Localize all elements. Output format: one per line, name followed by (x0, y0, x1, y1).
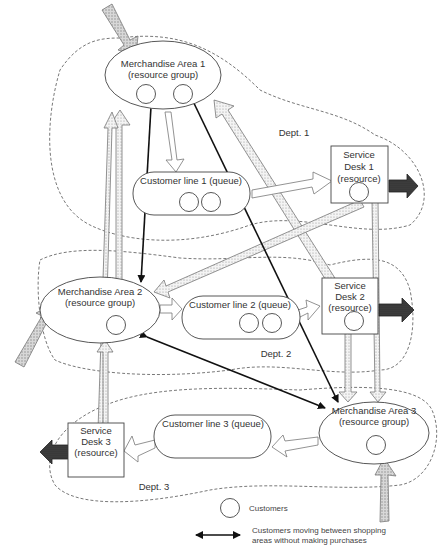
customer-icon (107, 316, 126, 335)
customer-line-3: Customer line 3 (queue) (154, 415, 271, 458)
svg-text:Service: Service (80, 425, 112, 436)
svg-text:Service: Service (343, 149, 375, 160)
svg-text:(resource group): (resource group) (339, 416, 409, 427)
customer-icon (137, 85, 156, 104)
exit-arrow-sd2 (379, 298, 414, 322)
svg-text:Merchandise Area 1: Merchandise Area 1 (121, 58, 206, 69)
legend-moving-label-2: areas without making purchases (252, 536, 367, 545)
flow-arrow-cl2-sd2 (298, 300, 320, 320)
svg-text:Merchandise Area 2: Merchandise Area 2 (58, 286, 143, 297)
customer-icon (263, 314, 282, 333)
service-desk-2: Service Desk 2 (resource) (322, 278, 378, 334)
svg-text:(resource group): (resource group) (65, 297, 135, 308)
svg-text:Merchandise Area 3: Merchandise Area 3 (332, 405, 417, 416)
merchandise-area-1: Merchandise Area 1 (resource group) (105, 41, 221, 109)
move-line-ma2-ma3 (147, 337, 325, 408)
flow-arrow-ma3-cl3 (272, 435, 318, 457)
customer-icon (174, 85, 193, 104)
svg-text:Desk 3: Desk 3 (81, 436, 111, 447)
service-desk-1: Service Desk 1 (resource) (331, 146, 388, 203)
customer-icon (180, 193, 199, 212)
dept2-label: Dept. 2 (261, 348, 292, 359)
flow-arrow-ma2-cl2 (160, 298, 182, 320)
svg-text:(resource): (resource) (74, 447, 117, 458)
customer-icon (367, 436, 386, 455)
svg-text:(resource group): (resource group) (128, 69, 198, 80)
legend-customer-icon (221, 499, 240, 518)
dept3-label: Dept. 3 (139, 481, 170, 492)
svg-text:Desk 1: Desk 1 (344, 161, 374, 172)
svg-text:Desk 2: Desk 2 (335, 291, 365, 302)
service-desk-3: Service Desk 3 (resource) (68, 423, 124, 477)
customer-icon (240, 314, 259, 333)
exit-arrow-sd1 (389, 174, 418, 198)
flow-arrow-cl3-sd3 (124, 436, 155, 462)
merchandise-area-3: Merchandise Area 3 (resource group) (319, 402, 429, 464)
svg-text:Customer line 3 (queue): Customer line 3 (queue) (162, 418, 264, 429)
customer-icon (345, 312, 364, 331)
exit-arrow-sd3 (40, 440, 68, 464)
customer-line-1: Customer line 1 (queue) (133, 172, 250, 215)
svg-text:(resource): (resource) (328, 302, 371, 313)
customer-icon (202, 193, 221, 212)
entry-arrow-ma3 (375, 458, 396, 522)
customer-line-2: Customer line 2 (queue) (182, 296, 300, 339)
customer-icon (350, 183, 369, 202)
flow-arrow-ma2-ma1 (110, 110, 130, 290)
store-flow-diagram: Merchandise Area 1 (resource group) Cust… (0, 0, 447, 559)
flow-arrow-ma1-cl1 (165, 112, 184, 172)
svg-text:Customer line 1 (queue): Customer line 1 (queue) (140, 175, 242, 186)
dept1-label: Dept. 1 (279, 127, 310, 138)
svg-text:Service: Service (334, 280, 366, 291)
legend-customers-label: Customers (249, 504, 288, 513)
flow-arrow-sd2-ma3 (339, 330, 357, 402)
legend-moving-label-1: Customers moving between shopping (252, 526, 386, 535)
svg-text:Customer line 2 (queue): Customer line 2 (queue) (189, 299, 291, 310)
merchandise-area-2: Merchandise Area 2 (resource group) (40, 277, 160, 343)
legend: Customers Customers moving between shopp… (196, 499, 386, 546)
